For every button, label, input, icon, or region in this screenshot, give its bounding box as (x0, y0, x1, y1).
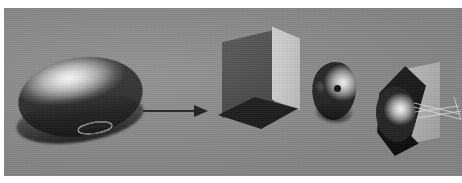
wedge-wireframe-detail (414, 94, 462, 124)
blob-dot-marker (334, 85, 341, 92)
page-top-margin (0, 0, 462, 7)
transformation-arrow (143, 105, 209, 117)
prism-right-face (272, 24, 300, 110)
arrow-head-icon (194, 105, 208, 117)
arrow-shaft (143, 110, 197, 112)
figure-panel (4, 8, 462, 176)
shaded-ellipsoid-object (18, 52, 143, 144)
small-shaded-blob-object (310, 62, 358, 124)
figure-root (0, 0, 462, 183)
dark-wedge-object (368, 52, 462, 160)
rectangular-prism-object (208, 24, 300, 130)
